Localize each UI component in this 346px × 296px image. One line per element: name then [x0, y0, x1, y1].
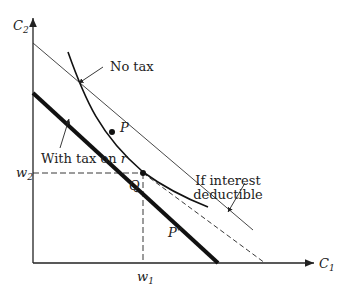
diagram-canvas: C2 C1 w2 w1 P Q P" No tax With tax on r …: [0, 0, 346, 296]
point-p: [109, 129, 115, 135]
y-axis-label: C2: [13, 18, 29, 35]
with-tax-budget-line: [33, 93, 218, 263]
no-tax-annotation: No tax: [110, 59, 154, 74]
point-p-label: P: [119, 120, 129, 135]
point-q: [140, 170, 146, 176]
w1-label: w1: [137, 269, 154, 286]
w2-label: w2: [16, 165, 33, 182]
point-p-double-prime-label: P": [167, 225, 183, 240]
x-axis-label: C1: [319, 256, 335, 273]
no-tax-pointer-arrow: [79, 67, 103, 83]
deductible-annotation-line1: If interest: [195, 173, 261, 188]
deductible-annotation-line2: deductible: [193, 187, 263, 202]
with-tax-annotation: With tax on r: [41, 151, 128, 166]
point-q-label: Q: [129, 178, 140, 193]
